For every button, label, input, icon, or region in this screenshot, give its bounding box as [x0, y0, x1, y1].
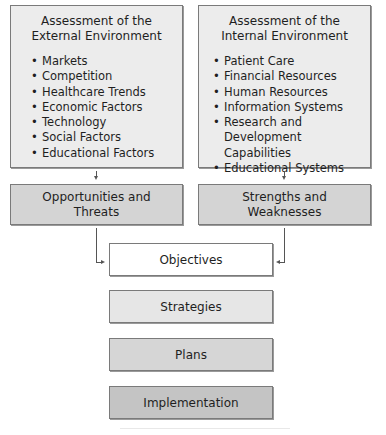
scan-artifact-line	[120, 428, 290, 429]
internal-environment-title: Assessment of the Internal Environment	[199, 14, 370, 44]
strengths-line1: Strengths and	[242, 190, 327, 205]
list-item: Financial Resources	[213, 69, 370, 84]
internal-factors-list: Patient Care Financial Resources Human R…	[199, 54, 370, 176]
strategies-box: Strategies	[109, 290, 273, 323]
list-item: Technology	[31, 115, 182, 130]
objectives-label: Objectives	[159, 253, 222, 267]
list-item-continuation: Capabilities	[213, 146, 370, 161]
arrow-left-icon	[276, 260, 280, 264]
strengths-weaknesses-box: Strengths and Weaknesses	[198, 184, 371, 225]
list-item: Educational Factors	[31, 146, 182, 161]
connector-line	[280, 262, 285, 263]
list-item: Educational Systems	[213, 161, 370, 176]
list-item: Markets	[31, 54, 182, 69]
external-environment-title: Assessment of the External Environment	[11, 14, 182, 44]
external-environment-box: Assessment of the External Environment M…	[10, 5, 183, 168]
opportunities-threats-box: Opportunities and Threats	[10, 184, 183, 225]
list-item: Human Resources	[213, 85, 370, 100]
opportunities-line1: Opportunities and	[42, 190, 150, 205]
objectives-box: Objectives	[109, 243, 273, 276]
list-item: Social Factors	[31, 130, 182, 145]
arrow-down-icon	[282, 176, 286, 180]
arrow-down-icon	[94, 176, 98, 180]
internal-environment-box: Assessment of the Internal Environment P…	[198, 5, 371, 168]
connector-line	[284, 228, 285, 262]
strategies-label: Strategies	[160, 300, 221, 314]
strengths-line2: Weaknesses	[248, 205, 322, 220]
arrow-right-icon	[101, 260, 105, 264]
connector-line	[96, 228, 97, 262]
external-title-line1: Assessment of the	[11, 14, 182, 29]
list-item: Competition	[31, 69, 182, 84]
opportunities-line2: Threats	[74, 205, 119, 220]
list-item: Healthcare Trends	[31, 85, 182, 100]
internal-title-line2: Internal Environment	[199, 29, 370, 44]
plans-box: Plans	[109, 338, 273, 371]
internal-title-line1: Assessment of the	[199, 14, 370, 29]
list-item: Information Systems	[213, 100, 370, 115]
implementation-box: Implementation	[109, 386, 273, 419]
list-item: Research and Development	[213, 115, 370, 146]
plans-label: Plans	[175, 348, 207, 362]
list-item: Economic Factors	[31, 100, 182, 115]
list-item: Patient Care	[213, 54, 370, 69]
implementation-label: Implementation	[143, 396, 238, 410]
external-factors-list: Markets Competition Healthcare Trends Ec…	[11, 54, 182, 161]
external-title-line2: External Environment	[11, 29, 182, 44]
